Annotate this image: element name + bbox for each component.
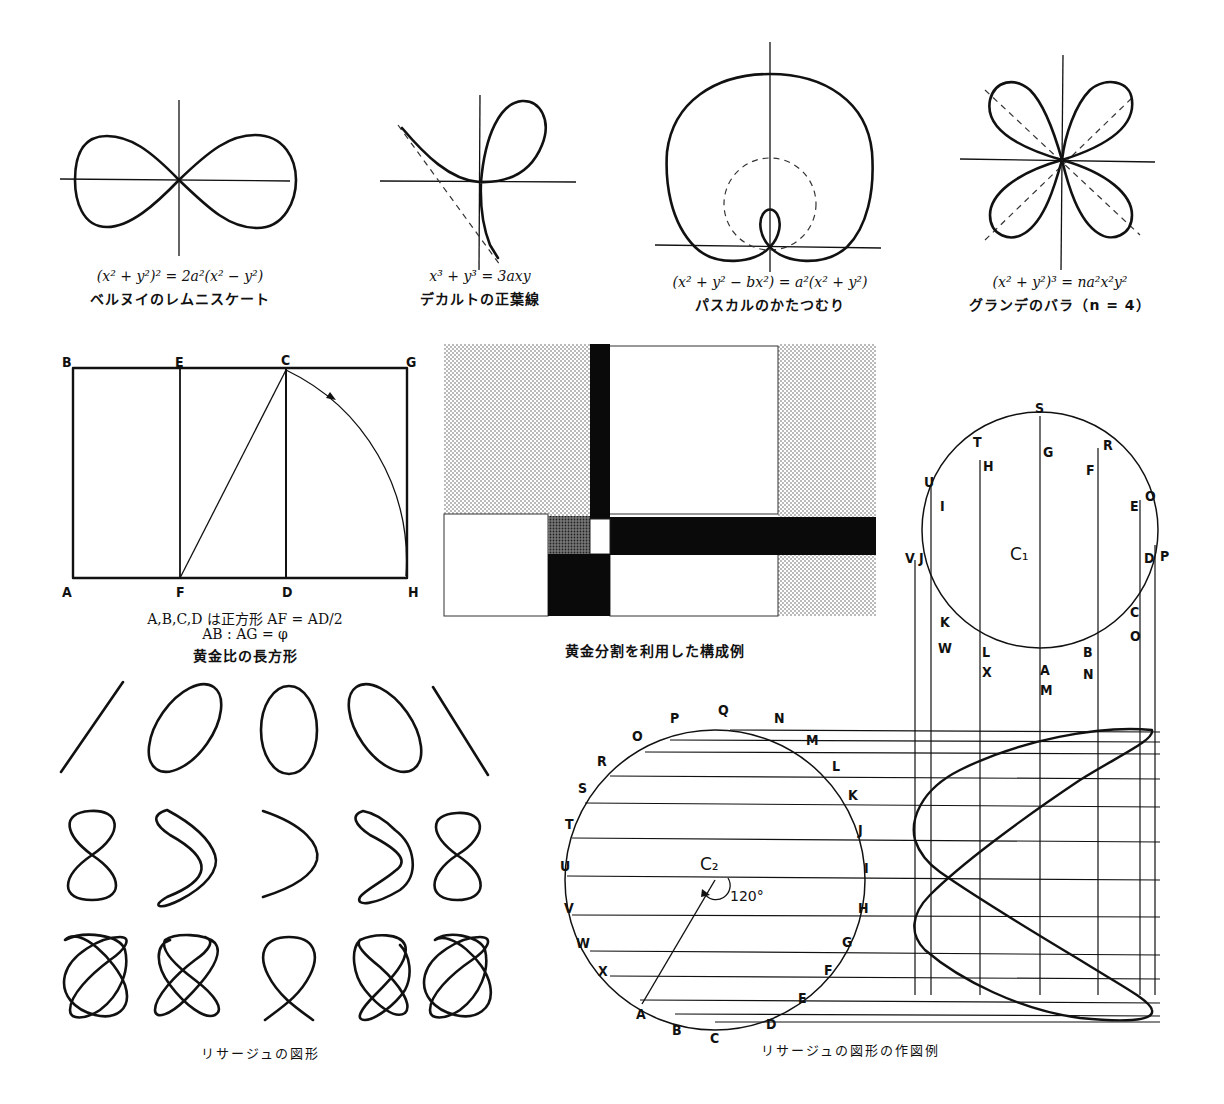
c2-label-e: E <box>798 990 807 1006</box>
c2-label-k: K <box>848 787 858 803</box>
lemniscate-curve <box>60 100 300 260</box>
rose-name: グランデのバラ（n = 4） <box>940 294 1180 314</box>
point-label-h: H <box>408 584 419 600</box>
c1-label-k: K <box>940 614 950 630</box>
golden-rectangle-note-1: A,B,C,D は正方形 AF = AD/2 <box>60 608 430 628</box>
golden-rectangle-diagram <box>60 340 430 580</box>
c1-label-w: W <box>938 640 952 656</box>
construction-diagram <box>560 410 1200 1050</box>
c2-label-r: R <box>597 753 607 769</box>
c2-label-n: N <box>774 710 785 726</box>
c2-label-s: S <box>578 780 587 796</box>
c1-label-d: D <box>1144 550 1154 566</box>
limacon-equation: (x² + y² − bx²) = a²(x² + y²) <box>640 274 900 290</box>
c2-label-c: C <box>710 1030 719 1046</box>
point-label-g: G <box>406 354 416 370</box>
point-label-e: E <box>175 354 184 370</box>
folium-curve <box>380 95 580 270</box>
c2-label-t: T <box>565 816 574 832</box>
c1-label-g: G <box>1043 444 1053 460</box>
c2-label-h: H <box>858 900 869 916</box>
c1-label-u: U <box>924 474 934 490</box>
c2-label-u: U <box>560 858 570 874</box>
rose-equation: (x² + y²)³ = na²x²y² <box>940 274 1180 290</box>
point-label-f: F <box>176 584 185 600</box>
limacon-curve <box>655 42 885 272</box>
c1-label-l: L <box>982 644 990 660</box>
lemniscate-equation: (x² + y²)² = 2a²(x² − y²) <box>60 268 300 284</box>
c1-label-j: J <box>919 550 924 566</box>
c2-label-g: G <box>842 934 852 950</box>
c2-label-o: O <box>632 728 643 744</box>
c1-label-e: E <box>1130 498 1139 514</box>
construction-caption: リサージュの図形の作図例 <box>720 1040 980 1059</box>
c1-label-x: X <box>982 664 992 680</box>
c2-label-d: D <box>766 1016 776 1032</box>
limacon-figure <box>655 42 885 272</box>
c1-label-o-top: O <box>1145 488 1156 504</box>
c2-label-x: X <box>598 963 608 979</box>
c2-center-label: C₂ <box>700 854 719 874</box>
c2-label-p: P <box>670 710 679 726</box>
c1-label-o-bottom: O <box>1130 628 1141 644</box>
lemniscate-figure <box>60 100 300 260</box>
c1-center-label: C₁ <box>1010 544 1029 564</box>
folium-name: デカルトの正葉線 <box>380 288 580 308</box>
golden-rectangle-caption: 黄金比の長方形 <box>60 645 430 665</box>
rose-curve <box>960 55 1160 270</box>
c2-label-b: B <box>672 1022 682 1038</box>
golden-rectangle-note-2: AB : AG = φ <box>60 626 430 642</box>
c2-label-m: M <box>806 732 819 748</box>
lissajous-grid <box>55 675 495 1035</box>
angle-label: 120° <box>730 888 764 904</box>
c2-label-f: F <box>824 962 833 978</box>
lissajous-figures <box>55 675 495 1035</box>
folium-figure <box>380 95 580 270</box>
lissajous-construction: S T U V R O P G H I J F E D C K L A B W … <box>560 410 1200 1050</box>
c1-label-c: C <box>1130 604 1139 620</box>
c1-label-v: V <box>905 550 915 566</box>
c2-label-v: V <box>564 900 574 916</box>
c1-label-f: F <box>1086 462 1095 478</box>
c2-label-a: A <box>636 1006 646 1022</box>
c2-label-q: Q <box>718 702 729 718</box>
c2-label-l: L <box>832 758 840 774</box>
point-label-a: A <box>62 584 72 600</box>
lissajous-caption: リサージュの図形 <box>180 1043 340 1062</box>
limacon-name: パスカルのかたつむり <box>640 294 900 314</box>
c1-label-s: S <box>1035 400 1044 416</box>
rose-figure <box>960 55 1160 270</box>
c1-label-p: P <box>1160 548 1169 564</box>
point-label-c: C <box>281 352 290 368</box>
point-label-d: D <box>282 584 292 600</box>
c1-label-i: I <box>940 498 945 514</box>
c2-label-w: W <box>576 935 590 951</box>
c1-label-t: T <box>973 434 982 450</box>
point-label-b: B <box>62 354 72 370</box>
lemniscate-name: ベルヌイのレムニスケート <box>60 288 300 308</box>
c1-label-b: B <box>1083 644 1093 660</box>
c1-label-r: R <box>1103 437 1113 453</box>
golden-rectangle-figure: B E C G <box>60 340 430 580</box>
c1-label-h: H <box>983 458 994 474</box>
c1-label-m: M <box>1040 682 1053 698</box>
c2-label-j: J <box>858 822 863 838</box>
c2-label-i: I <box>864 860 869 876</box>
folium-equation: x³ + y³ = 3axy <box>380 268 580 284</box>
c1-label-a: A <box>1040 662 1050 678</box>
c1-label-n: N <box>1083 666 1094 682</box>
